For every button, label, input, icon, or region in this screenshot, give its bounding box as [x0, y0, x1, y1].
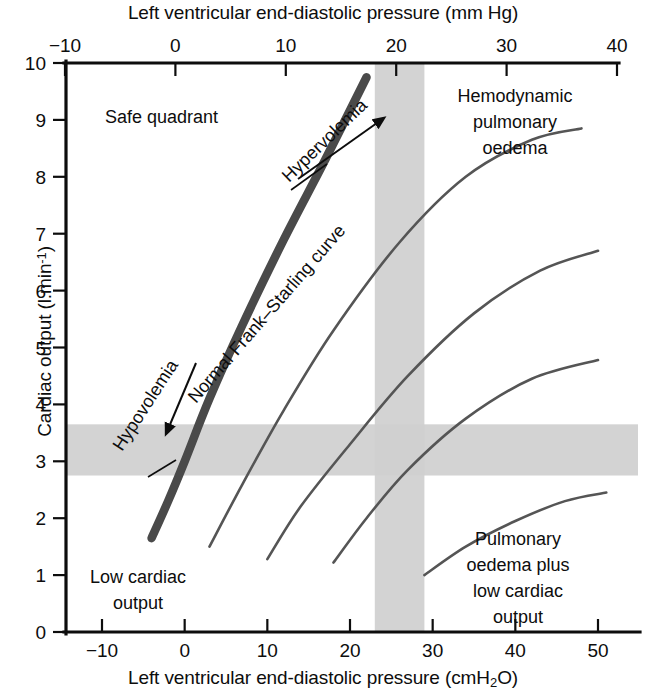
lco-line-1: Low cardiac: [90, 567, 186, 587]
annotation-normal-frank-starling-curve: Normal Frank–Starling curve: [184, 221, 349, 407]
y-axis-tick-label: 5: [35, 338, 46, 359]
bottom-axis-tick-label: 20: [339, 640, 360, 661]
chart-figure: Left ventricular end-diastolic pressure …: [0, 0, 646, 693]
top-axis-ticks: [65, 63, 617, 76]
y-axis-tick-label: 2: [35, 508, 46, 529]
top-axis-tick-label: 20: [386, 35, 407, 56]
y-axis-tick-label: 9: [35, 110, 46, 131]
bottom-axis-tick-label: 10: [257, 640, 278, 661]
poplco-line-4: output: [493, 607, 543, 627]
horizontal-shaded-band: [66, 424, 638, 475]
bottom-axis-tick-label: −10: [86, 640, 118, 661]
annotation-low-cardiac-output: Low cardiac output: [90, 567, 186, 613]
top-axis-tick-labels: −10010203040: [49, 35, 628, 56]
hemo-line-3: oedema: [482, 138, 548, 158]
bottom-axis-tick-label: 30: [422, 640, 443, 661]
poplco-line-3: low cardiac: [473, 581, 563, 601]
plot-area: −10010203040 −1001020304050 012345678910…: [0, 0, 646, 693]
annotation-safe-quadrant: Safe quadrant: [105, 107, 218, 127]
top-axis-tick-label: 40: [606, 35, 627, 56]
hemo-line-1: Hemodynamic: [457, 86, 572, 106]
bottom-axis-tick-label: 0: [179, 640, 190, 661]
top-axis-tick-label: 10: [275, 35, 296, 56]
poplco-line-2: oedema plus: [466, 555, 569, 575]
annotation-hemodynamic-pulmonary-oedema: Hemodynamic pulmonary oedema: [457, 86, 572, 158]
y-axis-tick-label: 7: [35, 224, 46, 245]
bottom-axis-tick-labels: −1001020304050: [86, 640, 609, 661]
annotations: Safe quadrant Hemodynamic pulmonary oede…: [90, 86, 573, 627]
hemo-line-2: pulmonary: [473, 112, 557, 132]
y-axis-ticks: [53, 63, 66, 632]
poplco-line-1: Pulmonary: [475, 529, 561, 549]
vertical-shaded-band: [375, 62, 425, 633]
y-axis-tick-label: 8: [35, 167, 46, 188]
y-axis-tick-label: 6: [35, 281, 46, 302]
top-axis-tick-label: −10: [49, 35, 81, 56]
y-axis-tick-label: 4: [35, 394, 46, 415]
y-axis-tick-label: 10: [25, 53, 46, 74]
y-axis-tick-labels: 012345678910: [25, 53, 47, 643]
bottom-axis-tick-label: 50: [587, 640, 608, 661]
top-axis-tick-label: 30: [496, 35, 517, 56]
depressed-curve-2: [267, 251, 598, 559]
y-axis-tick-label: 3: [35, 451, 46, 472]
top-axis-tick-label: 0: [170, 35, 181, 56]
y-axis-tick-label: 1: [35, 565, 46, 586]
annotation-pulmonary-oedema-plus-low-cardiac-output: Pulmonary oedema plus low cardiac output: [466, 529, 569, 627]
lco-line-2: output: [113, 593, 163, 613]
annotation-hypervolemia: Hypervolemia: [278, 94, 372, 186]
y-axis-tick-label: 0: [35, 622, 46, 643]
bottom-axis-tick-label: 40: [505, 640, 526, 661]
